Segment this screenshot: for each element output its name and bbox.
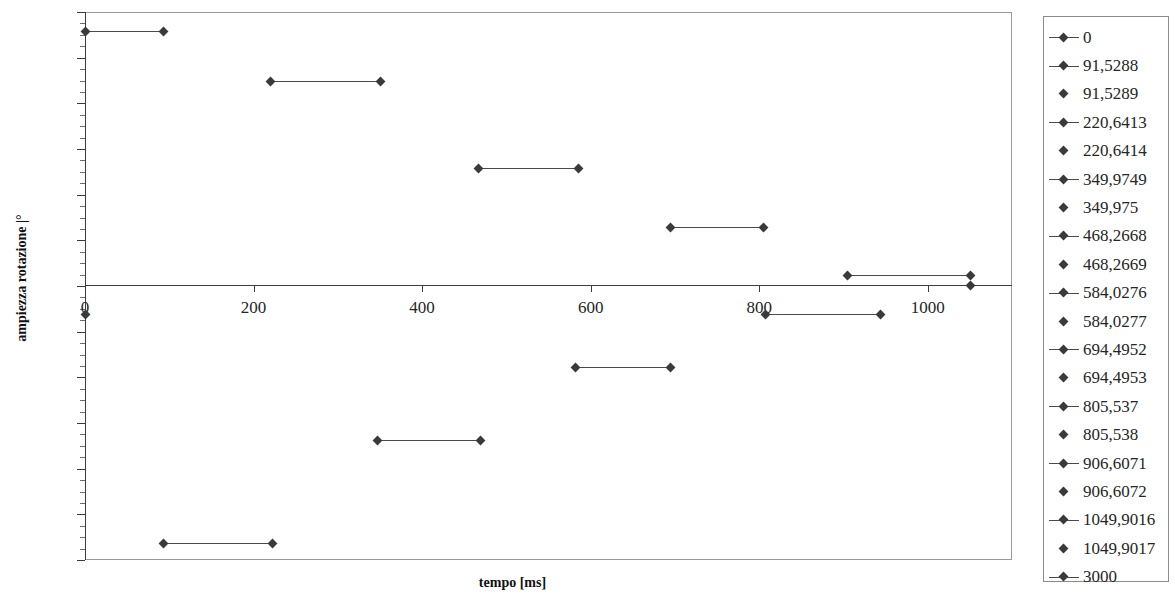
legend-key-icon [1049, 571, 1079, 583]
x-axis-tick [928, 285, 929, 292]
legend-item[interactable]: 91,5289 [1044, 80, 1168, 108]
y-axis-minor-tick [80, 389, 85, 390]
legend-item[interactable]: 220,6413 [1044, 108, 1168, 136]
series-segment [163, 543, 272, 544]
y-axis-minor-tick [80, 46, 85, 47]
y-axis-minor-tick [80, 434, 85, 435]
legend-item-label: 1049,9017 [1083, 540, 1155, 557]
legend-item[interactable]: 1049,9016 [1044, 506, 1168, 534]
y-axis-title: ampiezza rotazione |° [14, 148, 30, 408]
legend-item[interactable]: 805,538 [1044, 420, 1168, 448]
x-axis-tick [591, 285, 592, 292]
legend-item[interactable]: 906,6072 [1044, 477, 1168, 505]
legend-item-label: 91,5288 [1083, 57, 1138, 74]
legend-item-label: 584,0276 [1083, 284, 1147, 301]
legend-item[interactable]: 468,2668 [1044, 222, 1168, 250]
series-segment [270, 81, 380, 82]
legend-item-label: 906,6072 [1083, 483, 1147, 500]
y-axis-minor-tick [80, 480, 85, 481]
x-axis-tick [422, 285, 423, 292]
legend-key-icon [1049, 372, 1079, 384]
y-axis-tick [77, 560, 85, 561]
legend-item[interactable]: 349,975 [1044, 193, 1168, 221]
legend-item[interactable]: 220,6414 [1044, 137, 1168, 165]
plot-frame [85, 12, 1012, 560]
y-axis-tick [77, 423, 85, 424]
x-axis-tick [85, 285, 86, 292]
legend-item-label: 220,6413 [1083, 114, 1147, 131]
y-axis-minor-tick [80, 457, 85, 458]
legend-item-label: 584,0277 [1083, 313, 1147, 330]
legend-item[interactable]: 3000 [1044, 562, 1168, 590]
y-axis-minor-tick [80, 23, 85, 24]
series-segment [377, 440, 480, 441]
y-axis-minor-tick [80, 503, 85, 504]
legend-item-label: 349,975 [1083, 199, 1138, 216]
legend-key-icon [1049, 315, 1079, 327]
y-axis-tick [77, 195, 85, 196]
legend-item[interactable]: 1049,9017 [1044, 534, 1168, 562]
legend-key-icon [1049, 400, 1079, 412]
x-axis-tick-label: 400 [382, 299, 462, 316]
y-axis-minor-tick [80, 537, 85, 538]
legend-item-label: 3000 [1083, 568, 1117, 585]
legend-item-label: 1049,9016 [1083, 511, 1155, 528]
legend-key-icon [1049, 457, 1079, 469]
x-axis-tick [759, 285, 760, 292]
legend-item[interactable]: 91,5288 [1044, 51, 1168, 79]
legend-item[interactable]: 349,9749 [1044, 165, 1168, 193]
y-axis-minor-tick [80, 355, 85, 356]
x-axis-tick-label: 200 [214, 299, 294, 316]
legend-item[interactable]: 0 [1044, 23, 1168, 51]
legend-item-label: 468,2668 [1083, 227, 1147, 244]
legend-key-icon [1049, 31, 1079, 43]
y-axis-minor-tick [80, 446, 85, 447]
y-axis-minor-tick [80, 229, 85, 230]
x-axis-tick-label: 600 [551, 299, 631, 316]
legend-item-label: 468,2669 [1083, 256, 1147, 273]
legend-item[interactable]: 805,537 [1044, 392, 1168, 420]
legend-item[interactable]: 584,0276 [1044, 279, 1168, 307]
series-segment [765, 314, 880, 315]
legend-item[interactable]: 906,6071 [1044, 449, 1168, 477]
legend-item[interactable]: 694,4953 [1044, 364, 1168, 392]
legend-item-label: 694,4953 [1083, 369, 1147, 386]
y-axis-minor-tick [80, 138, 85, 139]
x-axis-title: tempo [ms] [0, 575, 1025, 591]
legend-item-label: 0 [1083, 29, 1092, 46]
x-axis-tick [254, 285, 255, 292]
y-axis-minor-tick [80, 218, 85, 219]
legend-item-label: 805,537 [1083, 398, 1138, 415]
y-axis-minor-tick [80, 92, 85, 93]
y-axis-minor-tick [80, 492, 85, 493]
series-segment [575, 367, 670, 368]
legend-key-icon [1049, 429, 1079, 441]
y-axis-tick [77, 12, 85, 13]
y-axis-tick [77, 332, 85, 333]
y-axis-minor-tick [80, 366, 85, 367]
y-axis-minor-tick [80, 69, 85, 70]
y-axis-minor-tick [80, 206, 85, 207]
y-axis-minor-tick [80, 115, 85, 116]
legend-key-icon [1049, 173, 1079, 185]
legend-item-label: 349,9749 [1083, 171, 1147, 188]
y-axis-minor-tick [80, 412, 85, 413]
y-axis-minor-tick [80, 126, 85, 127]
x-axis-zero-line [85, 285, 1012, 286]
y-axis-minor-tick [80, 343, 85, 344]
y-axis-tick [77, 149, 85, 150]
legend-item[interactable]: 584,0277 [1044, 307, 1168, 335]
legend-key-icon [1049, 202, 1079, 214]
y-axis-minor-tick [80, 252, 85, 253]
y-axis-minor-tick [80, 549, 85, 550]
series-segment [478, 168, 578, 169]
legend-key-icon [1049, 542, 1079, 554]
legend-item[interactable]: 468,2669 [1044, 250, 1168, 278]
y-axis-tick [77, 58, 85, 59]
y-axis-minor-tick [80, 275, 85, 276]
legend-item[interactable]: 694,4952 [1044, 335, 1168, 363]
y-axis-minor-tick [80, 526, 85, 527]
y-axis-minor-tick [80, 263, 85, 264]
legend-key-icon [1049, 60, 1079, 72]
series-segment [847, 275, 970, 276]
